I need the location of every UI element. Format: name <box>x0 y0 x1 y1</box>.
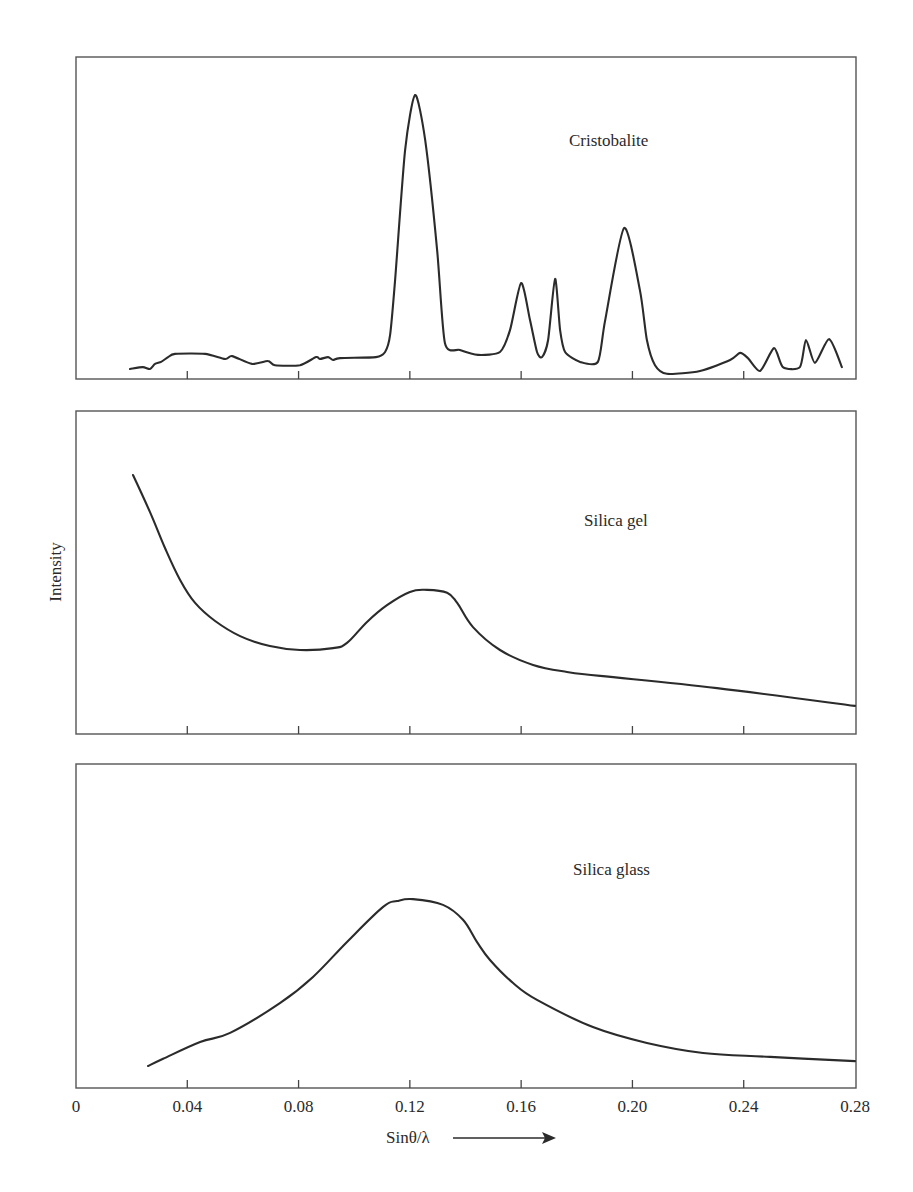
silica-gel-curve <box>133 475 855 706</box>
panel-silica-gel: Silica gel <box>76 411 856 734</box>
panel-frame <box>76 411 856 734</box>
cristobalite-curve <box>130 95 842 374</box>
x-axis-label: Sinθ/λ <box>386 1128 431 1147</box>
x-tick-label: 0.24 <box>729 1097 759 1116</box>
x-tick-label: 0.16 <box>506 1097 536 1116</box>
panel-label-cristobalite: Cristobalite <box>569 131 648 150</box>
x-tick-label: 0.28 <box>840 1097 870 1116</box>
right-arrow-icon <box>453 1132 556 1144</box>
x-tick-label: 0.12 <box>395 1097 425 1116</box>
panel-silica-glass: Silica glass <box>76 764 856 1088</box>
panel-label-silica-gel: Silica gel <box>584 511 648 530</box>
xrd-figure: Cristobalite Silica gel Silica glass Int… <box>0 0 913 1192</box>
x-tick-label: 0 <box>72 1097 81 1116</box>
silica-glass-curve <box>148 899 855 1066</box>
x-tick-label: 0.08 <box>284 1097 314 1116</box>
x-tick-labels: 00.040.080.120.160.200.240.28 <box>72 1097 870 1116</box>
y-axis-label: Intensity <box>46 542 65 602</box>
panel-label-silica-glass: Silica glass <box>573 860 650 879</box>
x-ticks <box>187 726 743 734</box>
panel-cristobalite: Cristobalite <box>76 57 856 379</box>
panel-frame <box>76 57 856 379</box>
x-tick-label: 0.20 <box>618 1097 648 1116</box>
x-tick-label: 0.04 <box>172 1097 202 1116</box>
xrd-chart: Cristobalite Silica gel Silica glass Int… <box>0 0 913 1192</box>
x-ticks <box>187 1080 743 1088</box>
panel-frame <box>76 764 856 1088</box>
